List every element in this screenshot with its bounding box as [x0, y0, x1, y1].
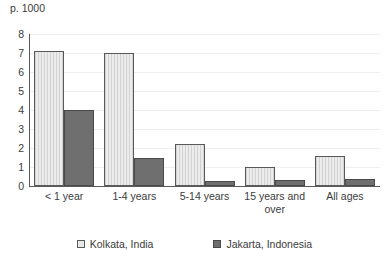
x-axis-tick-label: 15 years and over	[240, 190, 310, 216]
bar-group	[169, 34, 239, 186]
bar[interactable]	[345, 179, 375, 186]
bar-chart: p. 1000 012345678 < 1 year1-4 years5-14 …	[0, 0, 389, 258]
bar[interactable]	[245, 167, 275, 186]
bar[interactable]	[315, 156, 345, 186]
bar-group	[240, 34, 310, 186]
legend-item[interactable]: Jakarta, Indonesia	[213, 238, 312, 250]
y-axis-tick-label: 4	[18, 105, 24, 116]
y-axis-tick-label: 8	[18, 29, 24, 40]
bar[interactable]	[134, 158, 164, 187]
legend: Kolkata, IndiaJakarta, Indonesia	[0, 238, 389, 250]
y-axis-tick-label: 2	[18, 143, 24, 154]
bar[interactable]	[104, 53, 134, 186]
y-axis-tick-label: 6	[18, 67, 24, 78]
bar-groups	[29, 34, 380, 186]
y-axis-line	[29, 34, 30, 187]
legend-swatch-icon	[77, 240, 85, 248]
x-axis-tick-labels: < 1 year1-4 years5-14 years15 years and …	[29, 190, 380, 216]
x-axis-tick-label: All ages	[310, 190, 380, 216]
y-axis-tick-label: 1	[18, 162, 24, 173]
x-axis-line	[29, 186, 380, 187]
y-axis-tick-label: 7	[18, 48, 24, 59]
y-axis-tick-label: 0	[18, 181, 24, 192]
x-axis-tick-label: 5-14 years	[169, 190, 239, 216]
y-axis-tick-label: 3	[18, 124, 24, 135]
legend-label: Jakarta, Indonesia	[226, 238, 312, 250]
y-axis-tick-labels: 012345678	[0, 34, 24, 186]
bar-group	[99, 34, 169, 186]
plot-area	[29, 34, 380, 186]
y-axis-title: p. 1000	[10, 2, 45, 14]
bar[interactable]	[64, 110, 94, 186]
y-axis-tick-label: 5	[18, 86, 24, 97]
bar-group	[29, 34, 99, 186]
legend-item[interactable]: Kolkata, India	[77, 238, 154, 250]
bar[interactable]	[34, 51, 64, 186]
x-axis-tick-label: 1-4 years	[99, 190, 169, 216]
legend-swatch-icon	[213, 240, 221, 248]
bar-group	[310, 34, 380, 186]
bar[interactable]	[175, 144, 205, 186]
x-axis-tick-label: < 1 year	[29, 190, 99, 216]
legend-label: Kolkata, India	[90, 238, 154, 250]
